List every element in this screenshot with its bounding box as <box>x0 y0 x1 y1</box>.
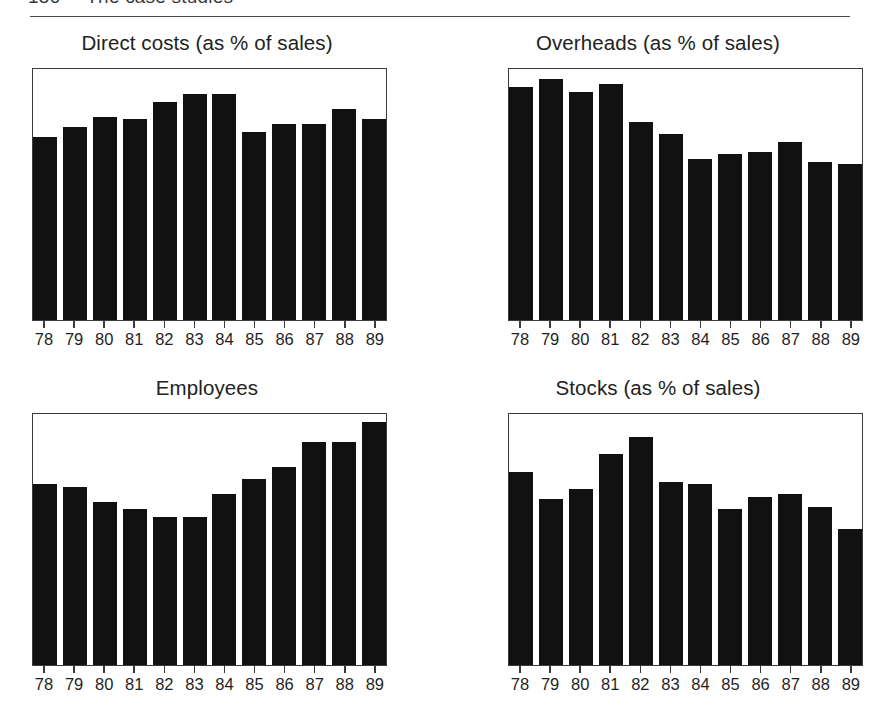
x-axis-tick <box>152 666 176 673</box>
plot-area <box>32 68 387 321</box>
x-axis-tick <box>303 321 327 328</box>
chapter-title: The case studies <box>86 0 233 7</box>
x-axis-tick <box>568 321 592 328</box>
x-axis-tick <box>658 666 682 673</box>
bar <box>242 479 266 665</box>
chart-title: Stocks (as % of sales) <box>440 375 880 401</box>
x-axis-tick <box>508 321 532 328</box>
x-axis-tick <box>212 321 236 328</box>
x-axis-tick-label: 84 <box>212 329 236 349</box>
x-axis-tick <box>508 666 532 673</box>
x-axis-ticks <box>32 666 387 673</box>
bar-series <box>33 69 386 320</box>
x-axis-tick <box>688 321 712 328</box>
chart-title: Overheads (as % of sales) <box>440 30 880 56</box>
bar <box>659 134 683 320</box>
x-axis-tick <box>363 666 387 673</box>
x-axis-ticks <box>32 321 387 328</box>
x-axis-tick-label: 87 <box>303 674 327 694</box>
bar <box>509 87 533 320</box>
plot-area <box>508 413 863 666</box>
bar <box>183 94 207 320</box>
bar <box>718 154 742 320</box>
chart-panel-direct-costs: Direct costs (as % of sales) 78798081828… <box>0 30 440 375</box>
x-axis-tick-label: 78 <box>32 674 56 694</box>
x-axis-tick-label: 84 <box>212 674 236 694</box>
x-axis-labels: 787980818283848586878889 <box>32 674 387 694</box>
x-axis-tick-label: 89 <box>363 329 387 349</box>
x-axis-tick <box>688 666 712 673</box>
x-axis-tick-label: 80 <box>568 329 592 349</box>
x-axis-tick-label: 78 <box>32 329 56 349</box>
x-axis-tick-label: 86 <box>273 329 297 349</box>
x-axis-tick <box>92 321 116 328</box>
x-axis-tick <box>839 666 863 673</box>
x-axis-tick-label: 81 <box>598 674 622 694</box>
x-axis-tick <box>598 321 622 328</box>
x-axis-tick-label: 87 <box>779 674 803 694</box>
x-axis-tick <box>92 666 116 673</box>
bar <box>688 159 712 320</box>
bar <box>302 442 326 665</box>
x-axis-tick <box>598 666 622 673</box>
running-head-text: 156The case studies <box>28 0 233 8</box>
bar <box>332 442 356 665</box>
x-axis-tick-label: 86 <box>749 329 773 349</box>
x-axis-tick <box>122 321 146 328</box>
x-axis-tick-label: 81 <box>122 329 146 349</box>
x-axis-tick-label: 89 <box>839 674 863 694</box>
bar <box>332 109 356 320</box>
bar <box>599 454 623 665</box>
bar <box>123 119 147 320</box>
x-axis-tick <box>809 321 833 328</box>
x-axis-tick-label: 82 <box>628 674 652 694</box>
x-axis-tick <box>628 321 652 328</box>
bar <box>183 517 207 665</box>
bar <box>33 137 57 320</box>
bar <box>93 502 117 665</box>
bar <box>569 92 593 320</box>
x-axis-tick <box>273 666 297 673</box>
x-axis-tick-label: 85 <box>243 329 267 349</box>
bar-series <box>509 414 862 665</box>
plot-area <box>508 68 863 321</box>
x-axis-tick-label: 89 <box>839 329 863 349</box>
x-axis-tick-label: 88 <box>333 329 357 349</box>
x-axis: 787980818283848586878889 <box>32 666 387 700</box>
header-rule <box>30 16 850 17</box>
x-axis-tick-label: 84 <box>688 674 712 694</box>
plot-area <box>32 413 387 666</box>
x-axis: 787980818283848586878889 <box>508 666 863 700</box>
x-axis-tick-label: 85 <box>243 674 267 694</box>
x-axis-tick <box>32 666 56 673</box>
x-axis-tick <box>333 666 357 673</box>
bar <box>539 499 563 665</box>
x-axis-tick <box>182 321 206 328</box>
bar <box>838 529 862 665</box>
x-axis-tick-label: 80 <box>92 329 116 349</box>
bar <box>63 127 87 320</box>
x-axis-tick <box>779 666 803 673</box>
x-axis-tick <box>303 666 327 673</box>
x-axis-tick <box>719 321 743 328</box>
x-axis-ticks <box>508 666 863 673</box>
x-axis-tick <box>62 321 86 328</box>
bar <box>659 482 683 665</box>
x-axis-tick-label: 83 <box>658 674 682 694</box>
bar <box>272 124 296 320</box>
bar <box>539 79 563 320</box>
chart-grid: Direct costs (as % of sales) 78798081828… <box>0 30 880 714</box>
page-number: 156 <box>28 0 60 7</box>
x-axis-tick-label: 89 <box>363 674 387 694</box>
x-axis-tick-label: 79 <box>538 674 562 694</box>
x-axis-tick <box>839 321 863 328</box>
bar <box>748 497 772 665</box>
bar-series <box>509 69 862 320</box>
x-axis-tick <box>719 666 743 673</box>
bar <box>778 494 802 665</box>
chart-panel-overheads: Overheads (as % of sales) 78798081828384… <box>440 30 880 375</box>
bar <box>63 487 87 665</box>
bar <box>242 132 266 320</box>
bar <box>93 117 117 320</box>
chart-title: Employees <box>0 375 440 401</box>
